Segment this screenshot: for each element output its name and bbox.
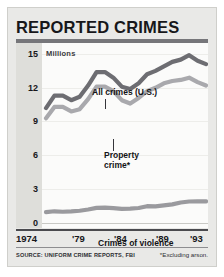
footer: SOURCE: UNIFORM CRIME REPORTS, FBI *Excl… — [16, 249, 208, 261]
x-tick-label-1993: '93 — [190, 232, 203, 246]
x-tick-label-1974: 1974 — [16, 232, 37, 246]
y-tick-label-6: 6 — [16, 151, 38, 160]
chart-figure: REPORTED CRIMES 15 12 9 6 3 0 Millions — [0, 0, 224, 277]
y-tick-label-3: 3 — [16, 185, 38, 194]
annotation-property-crime-line1: Property — [104, 150, 139, 160]
x-tick-label-1984: '84 — [114, 232, 127, 246]
annotation-property-crime: Propertycrime* — [104, 151, 152, 170]
x-axis-line — [16, 229, 208, 231]
leader-line-all-crimes — [105, 99, 106, 109]
x-tick-label-1989: '89 — [156, 232, 169, 246]
y-tick-label-0: 0 — [16, 219, 38, 228]
chart-card: REPORTED CRIMES 15 12 9 6 3 0 Millions — [8, 8, 216, 266]
y-axis-strip — [16, 43, 42, 228]
series-line-crimes-of-violence — [46, 201, 206, 212]
source-credit: SOURCE: UNIFORM CRIME REPORTS, FBI — [16, 249, 135, 261]
y-tick-label-12: 12 — [16, 84, 38, 93]
series-overlay — [42, 43, 208, 228]
page-title: REPORTED CRIMES — [16, 16, 208, 38]
leader-line-property-crime — [113, 139, 114, 151]
plot-area: 15 12 9 6 3 0 Millions All crimes (U.S.)… — [16, 43, 208, 228]
x-axis-labels: 1974 '79 '84 '89 '93 — [16, 232, 208, 246]
annotation-all-crimes: All crimes (U.S.) — [92, 88, 157, 98]
annotation-property-crime-line2: crime* — [104, 160, 130, 170]
footnote: *Excluding arson. — [160, 249, 208, 261]
y-tick-label-15: 15 — [16, 50, 38, 59]
y-tick-label-9: 9 — [16, 117, 38, 126]
x-tick-label-1979: '79 — [72, 232, 85, 246]
footer-rule — [16, 247, 208, 248]
